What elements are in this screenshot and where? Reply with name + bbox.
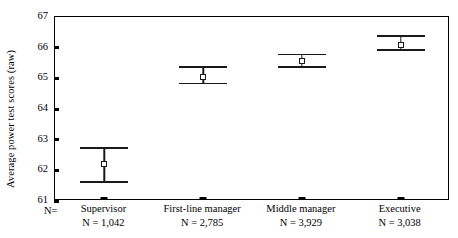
category-sample-size: N = 1,042 xyxy=(81,216,127,230)
error-bar-lower-cap xyxy=(179,83,227,85)
category-sample-size: N = 3,929 xyxy=(266,216,335,230)
y-axis-tick-mark xyxy=(54,169,59,172)
y-axis-tick-label: 67 xyxy=(20,11,48,21)
error-bar xyxy=(278,54,326,68)
y-axis-tick-mark xyxy=(54,46,59,49)
x-axis-category-label: Middle managerN = 3,929 xyxy=(266,202,335,230)
data-point-marker xyxy=(200,74,206,80)
y-axis-tick-label: 65 xyxy=(20,72,48,82)
error-bar-upper-cap xyxy=(278,54,326,56)
x-axis-category-label: SupervisorN = 1,042 xyxy=(81,202,127,230)
error-bar xyxy=(179,66,227,84)
category-name: Supervisor xyxy=(81,202,127,216)
x-axis-category-label: First-line managerN = 2,785 xyxy=(163,202,240,230)
data-point-marker xyxy=(299,58,305,64)
category-sample-size: N = 3,038 xyxy=(378,216,420,230)
x-axis-tick-mark xyxy=(298,197,305,200)
x-axis-tick-mark xyxy=(397,197,404,200)
data-point-marker xyxy=(101,161,107,167)
error-bar xyxy=(80,147,128,182)
error-bar-upper-cap xyxy=(80,147,128,149)
plot-area xyxy=(54,16,449,200)
error-bar-lower-cap xyxy=(80,181,128,183)
error-bar-lower-cap xyxy=(278,66,326,68)
y-axis-tick-label: 66 xyxy=(20,42,48,52)
data-point-marker xyxy=(398,42,404,48)
error-bar xyxy=(377,35,425,50)
error-bar-upper-cap xyxy=(179,66,227,68)
chart-page: Average power test scores (raw) 67666564… xyxy=(0,0,458,238)
x-axis-tick-mark xyxy=(101,197,108,200)
category-sample-size: N = 2,785 xyxy=(163,216,240,230)
category-name: Executive xyxy=(378,202,420,216)
x-axis-category-label: ExecutiveN = 3,038 xyxy=(378,202,420,230)
category-name: First-line manager xyxy=(163,202,240,216)
y-axis-tick-mark xyxy=(54,138,59,141)
x-axis-tick-mark xyxy=(200,197,207,200)
category-name: Middle manager xyxy=(266,202,335,216)
y-axis-tick-label: 63 xyxy=(20,134,48,144)
x-axis-labels: SupervisorN = 1,042First-line managerN =… xyxy=(0,202,458,238)
y-axis-tick-mark xyxy=(54,108,59,111)
error-bar-upper-cap xyxy=(377,35,425,37)
y-axis-tick-mark xyxy=(54,77,59,80)
y-axis-tick-label: 64 xyxy=(20,103,48,113)
y-axis-tick-label: 62 xyxy=(20,164,48,174)
error-bar-lower-cap xyxy=(377,49,425,51)
